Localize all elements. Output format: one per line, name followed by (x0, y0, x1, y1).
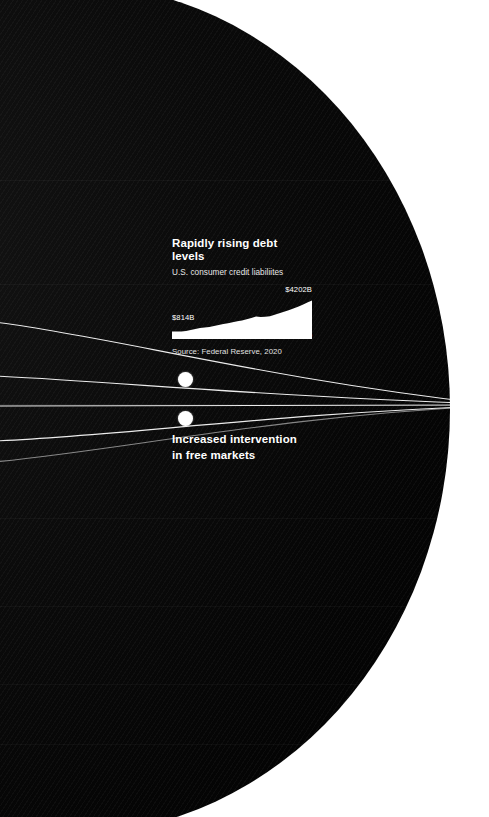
label-line-2: in free markets (172, 448, 332, 464)
chart-callout: Rapidly rising debt levels U.S. consumer… (172, 237, 312, 356)
sphere-background (0, 0, 489, 817)
latitude-line (0, 180, 450, 181)
latitude-line (0, 744, 450, 745)
sparkline-axis: 1990 2020 (172, 331, 312, 340)
label-line-1: Increased intervention (172, 432, 332, 448)
callout-subtitle: U.S. consumer credit liabiliites (172, 268, 312, 278)
sparkline-max-label: $4202B (285, 285, 312, 294)
infographic-canvas: Rapidly rising debt levels U.S. consumer… (0, 0, 489, 817)
callout-source: Source: Federal Reserve, 2020 (172, 347, 312, 356)
latitude-line (0, 404, 450, 405)
axis-start-label: 1990 (172, 331, 189, 340)
latitude-line (0, 518, 450, 519)
node-debt-levels[interactable] (178, 372, 193, 387)
sparkline-chart: $4202B $814B 1990 2020 (172, 285, 312, 343)
node-free-markets[interactable] (178, 411, 193, 426)
axis-end-label: 2020 (295, 331, 312, 340)
sphere-shape (0, 0, 450, 817)
label-increased-intervention: Increased intervention in free markets (172, 432, 332, 464)
latitude-line (0, 684, 450, 685)
latitude-line (0, 606, 450, 607)
callout-title: Rapidly rising debt levels (172, 237, 312, 263)
